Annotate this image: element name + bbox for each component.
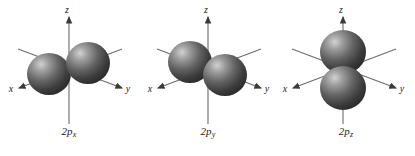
- x-axis-label: x: [8, 83, 14, 94]
- y-axis-label: y: [264, 83, 270, 94]
- orbital-lobe-front: [27, 53, 71, 95]
- orbital-caption: 2py: [139, 126, 277, 139]
- orbital-caption-main: 2p: [61, 125, 72, 137]
- orbital-lobe-bottom: [320, 66, 366, 110]
- 2p-z-orbital: z y x 2pz: [277, 0, 415, 156]
- z-axis-label: z: [64, 4, 69, 15]
- orbital-lobe-back: [66, 42, 110, 84]
- orbital-lobe-front: [203, 54, 247, 96]
- 2p-x-diagram: z y x: [0, 0, 138, 132]
- orbital-caption-main: 2p: [339, 125, 350, 137]
- p-orbitals-figure: z y x 2px: [0, 0, 415, 156]
- y-axis-label: y: [399, 83, 405, 94]
- 2p-y-orbital: z y x 2py: [139, 0, 277, 156]
- z-axis-label: z: [338, 4, 343, 15]
- y-axis-label: y: [125, 83, 131, 94]
- orbital-caption-subscript: z: [350, 130, 353, 139]
- 2p-z-diagram: z y x: [277, 0, 415, 132]
- orbital-caption: 2px: [0, 126, 138, 139]
- orbital-caption-subscript: x: [73, 130, 77, 139]
- z-axis-label: z: [203, 4, 208, 15]
- orbital-caption-main: 2p: [200, 125, 211, 137]
- 2p-x-orbital: z y x 2px: [0, 0, 138, 156]
- orbital-caption: 2pz: [277, 126, 415, 139]
- 2p-y-diagram: z y x: [139, 0, 277, 132]
- orbital-caption-subscript: y: [212, 130, 216, 139]
- x-axis-label: x: [282, 83, 288, 94]
- x-axis-label: x: [147, 83, 153, 94]
